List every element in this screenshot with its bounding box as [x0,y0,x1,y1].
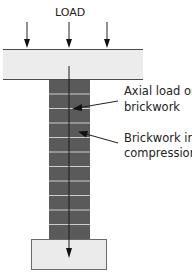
load-arrow-right-icon [104,22,110,48]
label-axial-load-line2: brickwork [124,100,180,114]
load-arrow-left-icon [24,22,30,48]
load-arrow-center-icon [66,22,72,48]
load-arrows [24,22,110,48]
slab [3,49,143,80]
label-compression-line2: compression [124,146,192,160]
label-compression-line1: Brickwork in [124,131,192,145]
label-axial-load-line1: Axial load on [124,84,192,98]
axial-load-diagram: LOAD [0,0,192,275]
load-title: LOAD [55,6,85,19]
